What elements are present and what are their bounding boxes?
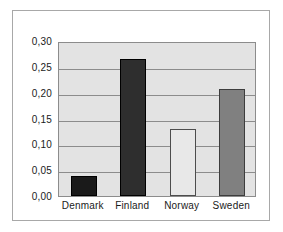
bar-slot xyxy=(109,43,159,196)
x-tick-label-norway: Norway xyxy=(157,201,207,211)
y-tick-label: 0,30 xyxy=(32,37,52,47)
bar-norway[interactable] xyxy=(170,129,196,196)
plot-area xyxy=(58,42,256,197)
bar-slot xyxy=(208,43,258,196)
bar-slot xyxy=(59,43,109,196)
bar-slot xyxy=(158,43,208,196)
bar-finland[interactable] xyxy=(120,59,146,196)
y-tick-label: 0,25 xyxy=(32,63,52,73)
y-tick-label: 0,00 xyxy=(32,192,52,202)
bar-sweden[interactable] xyxy=(219,89,245,196)
x-tick-label-denmark: Denmark xyxy=(58,201,108,211)
x-tick-label-finland: Finland xyxy=(108,201,158,211)
y-tick-label: 0,10 xyxy=(32,140,52,150)
bar-denmark[interactable] xyxy=(71,176,97,196)
chart-figure: 0,300,250,200,150,100,050,00 DenmarkFinl… xyxy=(0,0,283,232)
bar-series xyxy=(59,43,255,196)
x-tick-label-sweden: Sweden xyxy=(207,201,257,211)
y-tick-label: 0,15 xyxy=(32,115,52,125)
x-axis: DenmarkFinlandNorwaySweden xyxy=(58,201,256,219)
y-tick-label: 0,05 xyxy=(32,166,52,176)
y-tick-label: 0,20 xyxy=(32,89,52,99)
chart-outer-frame: 0,300,250,200,150,100,050,00 DenmarkFinl… xyxy=(12,10,270,221)
y-axis: 0,300,250,200,150,100,050,00 xyxy=(25,42,56,197)
